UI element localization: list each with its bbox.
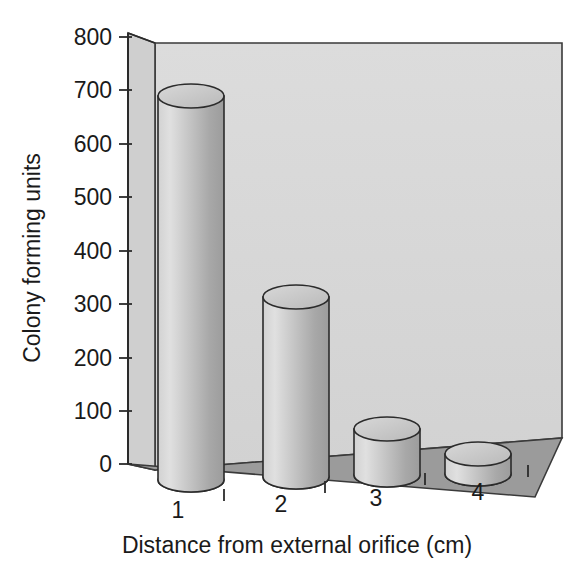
x-axis-title: Distance from external orifice (cm) — [122, 532, 472, 558]
x-tick-label: 4 — [472, 479, 485, 505]
y-tick-label: 300 — [74, 291, 112, 317]
y-tick-label: 0 — [99, 451, 112, 477]
three-d-bar-chart: 800 700 600 500 400 300 — [0, 0, 582, 567]
y-axis-title: Colony forming units — [19, 153, 45, 363]
x-tick-label: 3 — [370, 485, 383, 511]
y-axis: 800 700 600 500 400 300 — [19, 24, 132, 477]
y-tick-200: 200 — [74, 345, 132, 371]
x-tick-label: 2 — [275, 491, 288, 517]
y-tick-label: 200 — [74, 345, 112, 371]
x-tick-1: 1 — [172, 489, 224, 523]
y-tick-label: 100 — [74, 398, 112, 424]
chart-container: 800 700 600 500 400 300 — [0, 0, 582, 567]
y-tick-500: 500 — [74, 184, 132, 210]
y-tick-700: 700 — [74, 77, 132, 103]
bar-2[interactable] — [263, 285, 329, 489]
y-tick-300: 300 — [74, 291, 132, 317]
bar-4-top — [445, 442, 511, 466]
y-tick-label: 700 — [74, 77, 112, 103]
y-tick-0: 0 — [99, 451, 132, 477]
x-tick-label: 1 — [172, 497, 185, 523]
bar-3[interactable] — [354, 417, 420, 487]
y-tick-600: 600 — [74, 131, 132, 157]
y-tick-label: 800 — [74, 24, 112, 50]
y-tick-400: 400 — [74, 238, 132, 264]
bar-3-top — [354, 417, 420, 441]
y-tick-label: 500 — [74, 184, 112, 210]
y-tick-800: 800 — [74, 24, 132, 50]
y-tick-label: 600 — [74, 131, 112, 157]
left-side-wall — [128, 33, 155, 470]
bar-1[interactable] — [158, 84, 224, 492]
bar-1-top — [158, 84, 224, 108]
y-tick-label: 400 — [74, 238, 112, 264]
bar-2-top — [263, 285, 329, 309]
y-tick-100: 100 — [74, 398, 132, 424]
